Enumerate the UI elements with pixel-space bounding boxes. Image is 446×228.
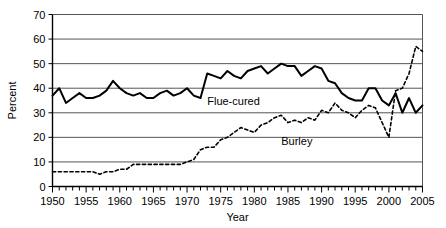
x-tick-label-1995: 1995 — [343, 195, 367, 207]
y-tick-label-50: 50 — [33, 58, 45, 70]
y-tick-label-30: 30 — [33, 107, 45, 119]
x-tick-label-1965: 1965 — [141, 195, 165, 207]
y-tick-label-0: 0 — [39, 181, 45, 193]
series-label-burley: Burley — [281, 135, 313, 147]
x-tick-label-1970: 1970 — [175, 195, 199, 207]
y-tick-label-40: 40 — [33, 82, 45, 94]
y-tick-label-60: 60 — [33, 33, 45, 45]
series-line-burley — [53, 46, 423, 174]
y-tick-label-20: 20 — [33, 131, 45, 143]
x-tick-label-1950: 1950 — [40, 195, 64, 207]
x-tick-label-1980: 1980 — [242, 195, 266, 207]
x-tick-label-1990: 1990 — [309, 195, 333, 207]
y-tick-label-10: 10 — [33, 156, 45, 168]
x-tick-label-1975: 1975 — [208, 195, 232, 207]
x-tick-label-1960: 1960 — [108, 195, 132, 207]
chart-container: 0102030405060701950195519601965197019751… — [0, 0, 446, 228]
y-tick-label-70: 70 — [33, 9, 45, 21]
y-axis-title: Percent — [6, 82, 18, 120]
x-tick-label-1985: 1985 — [276, 195, 300, 207]
x-tick-label-2000: 2000 — [377, 195, 401, 207]
x-tick-label-1955: 1955 — [74, 195, 98, 207]
series-label-flue-cured: Flue-cured — [207, 95, 260, 107]
tobacco-percent-line-chart: 0102030405060701950195519601965197019751… — [0, 0, 446, 228]
x-tick-label-2005: 2005 — [410, 195, 434, 207]
x-axis-title: Year — [226, 211, 249, 223]
